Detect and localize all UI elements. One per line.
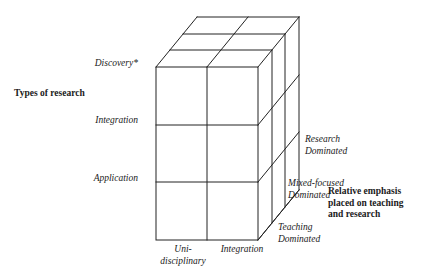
right-bottom-seg-1 [258,223,272,240]
daxis-title: Relative emphasis placed on teaching and… [328,186,434,221]
top-edge-left [156,17,197,67]
daxis-title-line1: Relative emphasis [328,186,434,198]
diagram-canvas: Discovery* Types of research Integration… [0,0,438,276]
daxis-tick-teaching-dominated-line1: Teaching [278,222,320,234]
daxis-tick-research-dominated-line1: Research [305,134,347,146]
right-bottom-seg-2 [272,207,285,223]
daxis-tick-teaching-dominated: Teaching Dominated [278,222,320,245]
daxis-title-line2: placed on teaching [328,198,434,210]
vaxis-tick-integration: Integration [62,115,138,127]
top-col-line [207,17,248,67]
daxis-tick-research-dominated-line2: Dominated [305,146,347,158]
cube-wireframe [0,0,438,276]
haxis-tick-unidisciplinary: Uni- disciplinary [152,244,214,267]
daxis-tick-teaching-dominated-line2: Dominated [278,234,320,246]
right-recede-row-2 [258,132,299,182]
vaxis-tick-application: Application [62,173,138,185]
haxis-tick-unidisciplinary-line1: Uni- [152,244,214,256]
right-recede-row-1 [258,75,299,125]
vaxis-tick-discovery: Discovery* [62,58,138,70]
top-edge-right [258,17,299,67]
haxis-tick-unidisciplinary-line2: disciplinary [152,256,214,268]
haxis-tick-integration: Integration [208,244,276,256]
vaxis-title: Types of research [14,88,85,100]
daxis-tick-research-dominated: Research Dominated [305,134,347,157]
daxis-title-line3: and research [328,209,434,221]
